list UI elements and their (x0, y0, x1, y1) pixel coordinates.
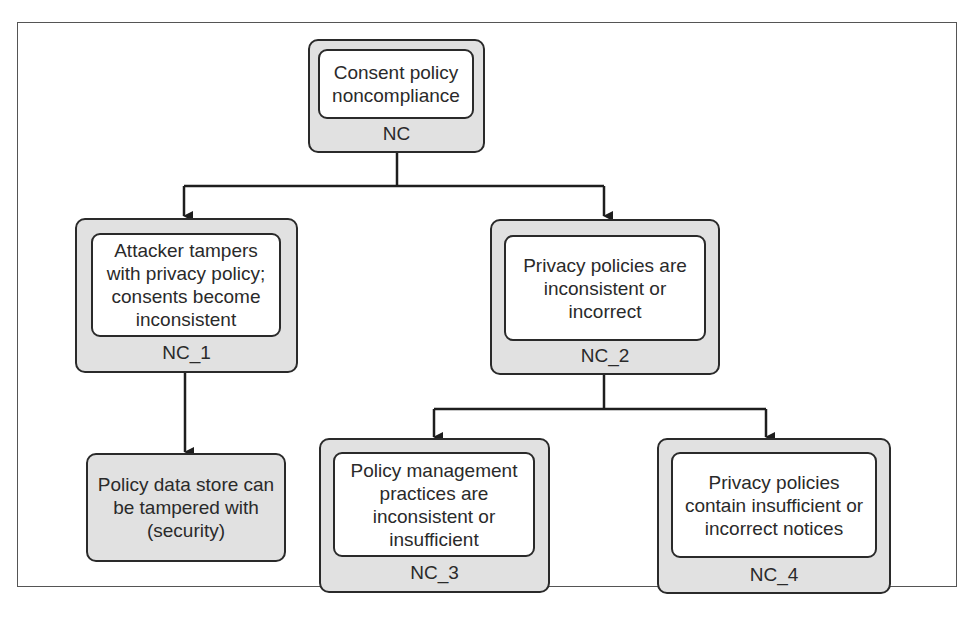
node-nc3-label: Policy management practices are inconsis… (349, 459, 519, 551)
node-nc1-id: NC_1 (77, 342, 296, 364)
node-nc3-label-box: Policy management practices are inconsis… (333, 452, 535, 557)
node-nc4: Privacy policies contain insufficient or… (657, 438, 891, 594)
node-policy-data-store-security: Policy data store can be tampered with (… (86, 453, 286, 562)
node-security-label: Policy data store can be tampered with (… (96, 473, 276, 542)
node-nc4-id: NC_4 (659, 564, 889, 586)
node-nc1-label-box: Attacker tampers with privacy policy; co… (91, 233, 281, 337)
node-nc1: Attacker tampers with privacy policy; co… (75, 218, 298, 373)
node-nc3: Policy management practices are inconsis… (319, 438, 550, 593)
node-nc1-label: Attacker tampers with privacy policy; co… (97, 239, 275, 331)
node-nc: Consent policy noncompliance NC (308, 39, 485, 153)
node-nc-id: NC (310, 123, 483, 145)
node-nc2-label: Privacy policies are inconsistent or inc… (520, 254, 690, 323)
node-nc-label: Consent policy noncompliance (324, 61, 468, 107)
node-nc2-label-box: Privacy policies are inconsistent or inc… (504, 235, 706, 341)
node-nc2-id: NC_2 (492, 345, 718, 367)
node-nc4-label: Privacy policies contain insufficient or… (677, 471, 871, 540)
node-nc2: Privacy policies are inconsistent or inc… (490, 219, 720, 375)
node-nc3-id: NC_3 (321, 562, 548, 584)
node-nc-label-box: Consent policy noncompliance (318, 49, 474, 119)
node-nc4-label-box: Privacy policies contain insufficient or… (671, 452, 877, 558)
